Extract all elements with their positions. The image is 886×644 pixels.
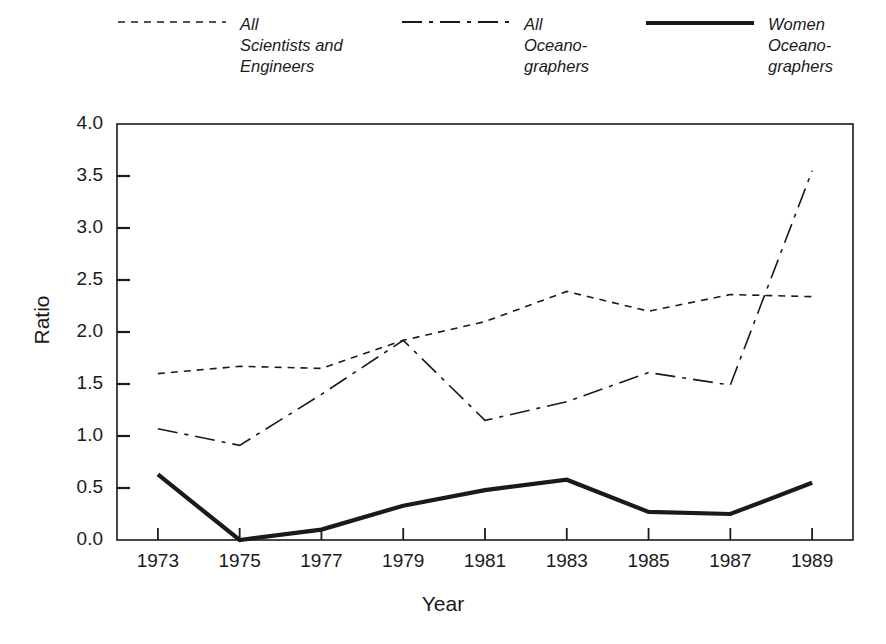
y-tick-label: 2.5: [49, 268, 103, 290]
x-tick-label: 1977: [281, 550, 361, 572]
x-tick-label: 1989: [772, 550, 852, 572]
chart-figure: All Scientists and Engineers All Oceano-…: [0, 0, 886, 644]
x-tick-label: 1981: [445, 550, 525, 572]
y-tick-label: 3.0: [49, 216, 103, 238]
series-line-all-oceanographers: [158, 171, 812, 446]
x-tick-label: 1987: [690, 550, 770, 572]
y-tick-label: 0.5: [49, 476, 103, 498]
y-tick-label: 0.0: [49, 528, 103, 550]
y-tick-label: 4.0: [49, 112, 103, 134]
x-tick-label: 1985: [609, 550, 689, 572]
data-series-group: [158, 171, 812, 540]
y-tick-label: 1.5: [49, 372, 103, 394]
series-line-all-scientists-and-engineers: [158, 291, 812, 373]
x-tick-label: 1979: [363, 550, 443, 572]
plot-frame: [117, 124, 853, 540]
plot-area: 0.00.51.01.52.02.53.03.54.0 197319751977…: [0, 0, 886, 644]
y-tick-label: 1.0: [49, 424, 103, 446]
x-tick-label: 1975: [200, 550, 280, 572]
plot-canvas: [0, 0, 886, 644]
y-axis-ticks: [117, 176, 130, 488]
y-tick-label: 3.5: [49, 164, 103, 186]
x-axis-title: Year: [0, 592, 886, 616]
y-tick-label: 2.0: [49, 320, 103, 342]
x-tick-label: 1983: [527, 550, 607, 572]
y-axis-title: Ratio: [30, 250, 54, 390]
x-tick-label: 1973: [118, 550, 198, 572]
